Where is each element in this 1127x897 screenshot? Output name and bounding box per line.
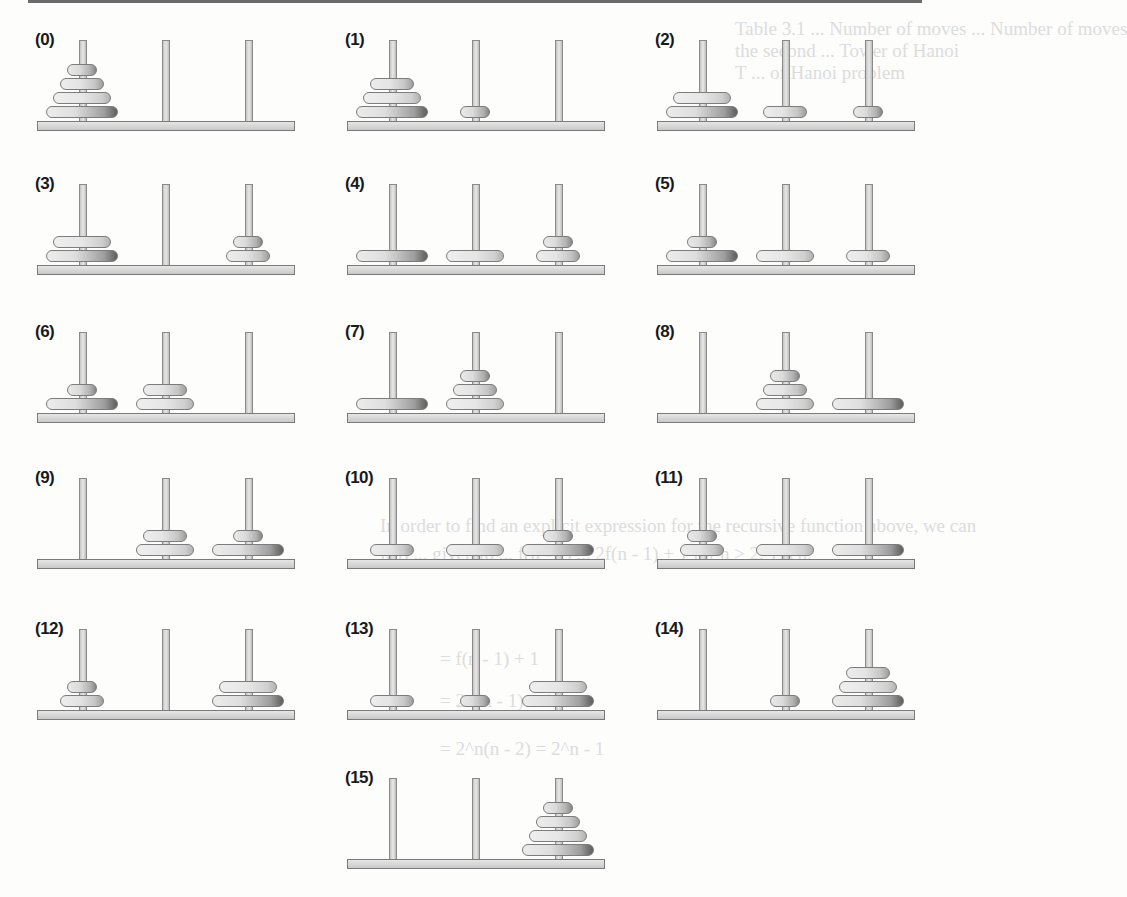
- disk-size-3: [53, 236, 111, 248]
- disk-size-4: [832, 398, 904, 410]
- state-label: (1): [345, 30, 364, 50]
- state-label: (6): [35, 322, 54, 342]
- tower-base: [657, 559, 915, 569]
- peg-a: [699, 629, 707, 711]
- disk-size-2: [680, 544, 724, 556]
- disk-size-2: [846, 250, 890, 262]
- bleed-through-line: = 2^n(n - 2) = 2^n - 1: [440, 738, 604, 760]
- disk-size-1: [543, 236, 573, 248]
- disk-size-1: [460, 695, 490, 707]
- bleed-through-line: Table 3.1 ... Number of moves ... Number…: [735, 18, 1127, 40]
- state-label: (10): [345, 468, 373, 488]
- disk-size-2: [370, 544, 414, 556]
- state-label: (7): [345, 322, 364, 342]
- state-label: (13): [345, 619, 373, 639]
- bleed-through-line: T ... of Hanoi problem: [735, 62, 905, 84]
- disk-size-2: [536, 816, 580, 828]
- disk-size-2: [763, 384, 807, 396]
- state-label: (12): [35, 619, 63, 639]
- bleed-through-line: = f(n - 1) + 1: [440, 648, 539, 670]
- disk-size-4: [356, 250, 428, 262]
- peg-b: [162, 40, 170, 122]
- state-label: (9): [35, 468, 54, 488]
- peg-b: [472, 778, 480, 860]
- disk-size-4: [46, 106, 118, 118]
- tower-base: [347, 121, 605, 131]
- disk-size-4: [212, 544, 284, 556]
- disk-size-2: [536, 250, 580, 262]
- disk-size-2: [143, 530, 187, 542]
- top-rule: [28, 0, 922, 3]
- disk-size-1: [770, 695, 800, 707]
- disk-size-3: [756, 398, 814, 410]
- disk-size-1: [67, 681, 97, 693]
- disk-size-2: [60, 695, 104, 707]
- disk-size-1: [233, 530, 263, 542]
- tower-base: [347, 710, 605, 720]
- state-label: (2): [655, 30, 674, 50]
- bleed-through-line: the second ... Tower of Hanoi: [735, 40, 959, 62]
- disk-size-3: [219, 681, 277, 693]
- disk-size-3: [673, 92, 731, 104]
- tower-base: [37, 121, 295, 131]
- disk-size-3: [529, 681, 587, 693]
- state-label: (15): [345, 768, 373, 788]
- tower-base: [37, 710, 295, 720]
- disk-size-2: [846, 667, 890, 679]
- disk-size-4: [832, 695, 904, 707]
- disk-size-3: [756, 544, 814, 556]
- state-label: (11): [655, 468, 682, 488]
- disk-size-3: [136, 398, 194, 410]
- disk-size-1: [770, 370, 800, 382]
- state-label: (8): [655, 322, 674, 342]
- disk-size-4: [522, 544, 594, 556]
- state-label: (14): [655, 619, 683, 639]
- state-label: (3): [35, 174, 54, 194]
- disk-size-3: [529, 830, 587, 842]
- peg-a: [79, 478, 87, 560]
- tower-base: [657, 121, 915, 131]
- disk-size-2: [226, 250, 270, 262]
- peg-c: [245, 40, 253, 122]
- bleed-through-line: In order to find an explicit expression …: [380, 515, 976, 537]
- peg-a: [389, 778, 397, 860]
- tower-base: [657, 710, 915, 720]
- peg-b: [162, 629, 170, 711]
- disk-size-4: [212, 695, 284, 707]
- disk-size-4: [666, 250, 738, 262]
- tower-base: [37, 265, 295, 275]
- disk-size-2: [60, 78, 104, 90]
- disk-size-3: [53, 92, 111, 104]
- disk-size-4: [666, 106, 738, 118]
- tower-base: [347, 559, 605, 569]
- disk-size-3: [446, 398, 504, 410]
- disk-size-1: [67, 384, 97, 396]
- tower-base: [347, 859, 605, 869]
- peg-c: [555, 332, 563, 414]
- disk-size-1: [233, 236, 263, 248]
- disk-size-2: [453, 384, 497, 396]
- tower-base: [657, 265, 915, 275]
- disk-size-3: [446, 544, 504, 556]
- state-label: (0): [35, 30, 54, 50]
- disk-size-3: [839, 681, 897, 693]
- state-label: (4): [345, 174, 364, 194]
- tower-base: [347, 413, 605, 423]
- peg-b: [162, 184, 170, 266]
- disk-size-2: [370, 695, 414, 707]
- state-label: (5): [655, 174, 674, 194]
- disk-size-2: [763, 106, 807, 118]
- disk-size-4: [356, 106, 428, 118]
- tower-base: [37, 559, 295, 569]
- disk-size-1: [687, 530, 717, 542]
- disk-size-4: [522, 844, 594, 856]
- disk-size-3: [363, 92, 421, 104]
- disk-size-4: [356, 398, 428, 410]
- disk-size-4: [46, 398, 118, 410]
- disk-size-1: [460, 106, 490, 118]
- peg-a: [699, 332, 707, 414]
- disk-size-1: [687, 236, 717, 248]
- tower-base: [347, 265, 605, 275]
- disk-size-4: [46, 250, 118, 262]
- tower-base: [37, 413, 295, 423]
